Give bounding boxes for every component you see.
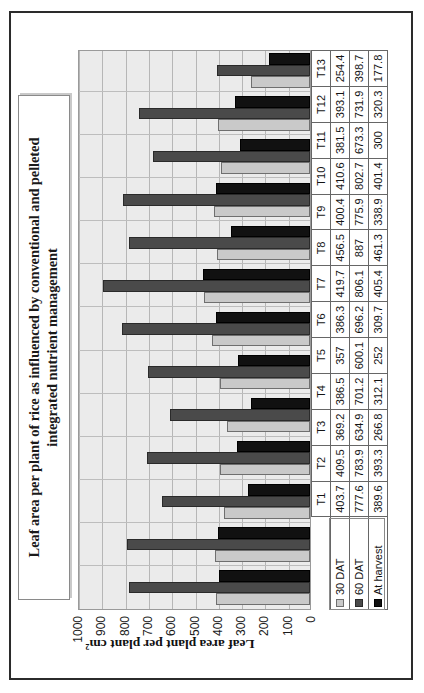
category-separator (79, 350, 310, 351)
table-column-header-T3: T3 (312, 409, 331, 445)
table-cell: 401.4 (369, 158, 388, 194)
bar-T11-30-dat (221, 162, 310, 173)
legend-item-label: 30 DAT (334, 559, 346, 595)
bar-T9-30-dat (217, 249, 310, 260)
bar-T6-at-harvest (238, 355, 310, 366)
table-row: At harvest389.6393.3266.8312.1252309.740… (369, 51, 388, 610)
table-column-header-T9: T9 (312, 194, 331, 230)
table-cell: 386.5 (331, 374, 350, 410)
table-column-header-T5: T5 (312, 338, 331, 374)
table-column-header-T8: T8 (312, 230, 331, 266)
legend-swatch-icon (355, 599, 363, 607)
category-separator (79, 220, 310, 221)
table-cell: 381.5 (331, 122, 350, 158)
bar-T2-at-harvest (218, 527, 310, 538)
legend-swatch-icon (336, 599, 344, 607)
bar-T10-30-dat (214, 206, 310, 217)
plot-area (78, 50, 311, 610)
table-cell: 409.5 (331, 445, 350, 481)
bar-T4-at-harvest (237, 441, 310, 452)
y-axis-tick-label: 0 (304, 616, 318, 664)
bar-T13-at-harvest (269, 53, 310, 64)
bar-T2-30-dat (215, 550, 310, 561)
legend-item-at-harvest[interactable]: At harvest (369, 517, 388, 610)
table-body: 30 DAT403.7409.5369.2386.5357386.3419.74… (331, 51, 388, 610)
table-cell: 389.6 (369, 481, 388, 517)
data-table: T1T2T3T4T5T6T7T8T9T10T11T12T13 30 DAT403… (311, 50, 388, 610)
table-cell: 634.9 (350, 409, 369, 445)
bar-T5-at-harvest (251, 398, 310, 409)
table-cell: 177.8 (369, 51, 388, 87)
table-cell: 600.1 (350, 338, 369, 374)
table-column-header-T10: T10 (312, 158, 331, 194)
y-axis-title: Leaf area plant per plant cm² (40, 636, 300, 652)
chart-title-box: Leaf area per plant of rice as influence… (18, 95, 70, 600)
table-column-header-T12: T12 (312, 87, 331, 123)
bar-T1-30-dat (216, 593, 310, 604)
table-cell: 252 (369, 338, 388, 374)
table-header: T1T2T3T4T5T6T7T8T9T10T11T12T13 (312, 51, 331, 610)
table-cell: 312.1 (369, 374, 388, 410)
table-cell: 802.7 (350, 158, 369, 194)
category-separator (79, 479, 310, 480)
table-cell: 338.9 (369, 194, 388, 230)
bar-T12-60-dat (139, 108, 310, 119)
table-cell: 461.3 (369, 230, 388, 266)
bar-T3-at-harvest (248, 484, 310, 495)
table-cell: 405.4 (369, 266, 388, 302)
legend-item-label: 60 DAT (353, 559, 365, 595)
bar-T13-60-dat (217, 65, 310, 76)
bar-T10-at-harvest (216, 183, 310, 194)
table-cell: 393.3 (369, 445, 388, 481)
bar-T12-30-dat (218, 119, 310, 130)
rotated-chart-host: Leaf area per plant of rice as influence… (12, 14, 410, 678)
table-column-header-T6: T6 (312, 302, 331, 338)
bar-T5-60-dat (170, 409, 310, 420)
category-separator (79, 522, 310, 523)
table-cell: 309.7 (369, 302, 388, 338)
table-row: 60 DAT777.6783.9634.9701.2600.1696.2806.… (350, 51, 369, 610)
chart-figure: Leaf area per plant of rice as influence… (12, 14, 410, 678)
legend-swatch-icon (374, 599, 382, 607)
legend-item-60-dat[interactable]: 60 DAT (350, 517, 369, 610)
table-cell: 254.4 (331, 51, 350, 87)
table-cell: 775.9 (350, 194, 369, 230)
table-cell: 456.5 (331, 230, 350, 266)
table-cell: 266.8 (369, 409, 388, 445)
bar-T2-60-dat (127, 539, 310, 550)
table-column-header-T4: T4 (312, 374, 331, 410)
table-cell: 386.3 (331, 302, 350, 338)
table-cell: 398.7 (350, 51, 369, 87)
bar-T3-30-dat (224, 507, 310, 518)
legend-item-30-dat[interactable]: 30 DAT (331, 517, 350, 610)
bar-T12-at-harvest (235, 96, 310, 107)
category-separator (79, 306, 310, 307)
table-cell: 731.9 (350, 87, 369, 123)
table-column-header-T2: T2 (312, 445, 331, 481)
bar-T4-60-dat (147, 453, 310, 464)
bar-T10-60-dat (123, 194, 310, 205)
table-cell: 887 (350, 230, 369, 266)
bar-T3-60-dat (162, 496, 310, 507)
table-cell: 403.7 (331, 481, 350, 517)
category-separator (79, 393, 310, 394)
table-row: 30 DAT403.7409.5369.2386.5357386.3419.74… (331, 51, 350, 610)
bar-T7-30-dat (212, 335, 310, 346)
bar-T8-at-harvest (203, 269, 310, 280)
table-cell: 410.6 (331, 158, 350, 194)
page-title: Leaf area per plant of rice as influence… (26, 106, 61, 589)
bar-T9-at-harvest (231, 226, 310, 237)
table-column-header-T13: T13 (312, 51, 331, 87)
category-separator (79, 436, 310, 437)
category-separator (79, 565, 310, 566)
category-separator (79, 91, 310, 92)
bar-T4-30-dat (220, 464, 310, 475)
table-header-row: T1T2T3T4T5T6T7T8T9T10T11T12T13 (312, 51, 331, 610)
table-cell: 701.2 (350, 374, 369, 410)
table-corner-cell (312, 517, 331, 610)
table-column-header-T7: T7 (312, 266, 331, 302)
scanned-page: Leaf area per plant of rice as influence… (0, 0, 424, 693)
table-cell: 357 (331, 338, 350, 374)
table-cell: 300 (369, 122, 388, 158)
table-cell: 777.6 (350, 481, 369, 517)
